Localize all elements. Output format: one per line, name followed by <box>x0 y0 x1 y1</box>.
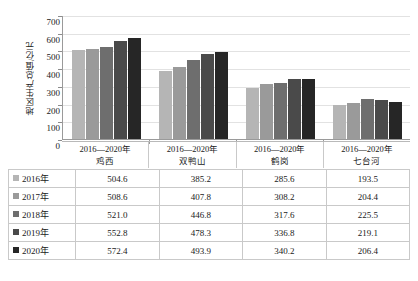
bar-chart: 地区生产总值/亿元 7006005004003002001000 2016—20… <box>0 0 418 168</box>
y-axis-tick-labels: 7006005004003002001000 <box>38 10 60 146</box>
table-cell: 193.5 <box>326 170 410 188</box>
bar[interactable] <box>114 41 127 139</box>
y-axis-tick-label: 100 <box>38 122 60 134</box>
category-label-1: 2016—2020年鸡西 <box>62 142 149 168</box>
data-table-body: 2016年504.6385.2285.6193.52017年508.6407.8… <box>9 170 410 260</box>
category-label-band: 2016—2020年鸡西2016—2020年双鸭山2016—2020年鹤岗201… <box>62 141 410 168</box>
y-axis-tick-label: 200 <box>38 105 60 117</box>
bar[interactable] <box>159 71 172 139</box>
table-cell: 219.1 <box>326 224 410 242</box>
bar[interactable] <box>86 49 99 139</box>
legend-entry[interactable]: 2020年 <box>9 242 76 260</box>
bar[interactable] <box>173 67 186 139</box>
legend-entry[interactable]: 2016年 <box>9 170 76 188</box>
legend-label: 2017年 <box>22 192 49 202</box>
bar[interactable] <box>201 54 214 139</box>
bar-groups <box>63 16 410 139</box>
legend-label: 2020年 <box>22 246 49 256</box>
table-cell: 204.4 <box>326 188 410 206</box>
table-row: 2016年504.6385.2285.6193.5 <box>9 170 410 188</box>
y-axis-tick-label: 400 <box>38 69 60 81</box>
category-year-range: 2016—2020年 <box>167 143 219 155</box>
table-cell: 340.2 <box>243 242 327 260</box>
bar-group <box>237 16 324 139</box>
table-row: 2019年552.8478.3336.8219.1 <box>9 224 410 242</box>
category-year-range: 2016—2020年 <box>341 143 393 155</box>
bar[interactable] <box>215 52 228 139</box>
table-row: 2017年508.6407.8308.2204.4 <box>9 188 410 206</box>
table-cell: 446.8 <box>159 206 243 224</box>
bar[interactable] <box>389 102 402 139</box>
legend-swatch-icon <box>13 211 19 217</box>
category-label-2: 2016—2020年双鸭山 <box>149 142 236 168</box>
category-year-range: 2016—2020年 <box>254 143 306 155</box>
data-table: 2016年504.6385.2285.6193.52017年508.6407.8… <box>8 169 410 260</box>
bar-group <box>324 16 411 139</box>
bar[interactable] <box>128 38 141 139</box>
table-cell: 407.8 <box>159 188 243 206</box>
category-city-name: 七台河 <box>353 155 380 167</box>
y-axis-tick-label: 700 <box>38 16 60 28</box>
category-city-name: 鹤岗 <box>271 155 289 167</box>
legend-entry[interactable]: 2017年 <box>9 188 76 206</box>
category-label-3: 2016—2020年鹤岗 <box>237 142 324 168</box>
table-cell: 504.6 <box>76 170 160 188</box>
bar[interactable] <box>100 47 113 139</box>
bar[interactable] <box>274 83 287 139</box>
table-cell: 572.4 <box>76 242 160 260</box>
bar[interactable] <box>347 103 360 139</box>
legend-entry[interactable]: 2019年 <box>9 224 76 242</box>
bar[interactable] <box>187 60 200 139</box>
bar[interactable] <box>361 99 374 139</box>
y-axis-tick-label: 300 <box>38 87 60 99</box>
category-label-4: 2016—2020年七台河 <box>324 142 410 168</box>
category-year-range: 2016—2020年 <box>79 143 131 155</box>
chart-page: 地区生产总值/亿元 7006005004003002001000 2016—20… <box>0 0 418 281</box>
table-row: 2020年572.4493.9340.2206.4 <box>9 242 410 260</box>
table-cell: 552.8 <box>76 224 160 242</box>
bar[interactable] <box>246 88 259 139</box>
bar[interactable] <box>260 84 273 139</box>
table-cell: 336.8 <box>243 224 327 242</box>
legend-entry[interactable]: 2018年 <box>9 206 76 224</box>
table-cell: 521.0 <box>76 206 160 224</box>
table-cell: 493.9 <box>159 242 243 260</box>
legend-label: 2019年 <box>22 228 49 238</box>
legend-swatch-icon <box>13 247 19 253</box>
bar-group <box>150 16 237 139</box>
table-row: 2018年521.0446.8317.6225.5 <box>9 206 410 224</box>
category-city-name: 鸡西 <box>96 155 114 167</box>
bar-group <box>63 16 150 139</box>
table-cell: 317.6 <box>243 206 327 224</box>
legend-swatch-icon <box>13 175 19 181</box>
legend-label: 2016年 <box>22 174 49 184</box>
y-axis-tick-label: 600 <box>38 34 60 46</box>
category-city-name: 双鸭山 <box>179 155 206 167</box>
table-cell: 285.6 <box>243 170 327 188</box>
bar[interactable] <box>72 50 85 139</box>
table-cell: 225.5 <box>326 206 410 224</box>
y-axis-title: 地区生产总值/亿元 <box>24 16 38 140</box>
legend-label: 2018年 <box>22 210 49 220</box>
y-axis-tick-label: 0 <box>38 140 60 152</box>
y-axis-tick-label: 500 <box>38 51 60 63</box>
table-cell: 385.2 <box>159 170 243 188</box>
bar[interactable] <box>375 100 388 139</box>
legend-swatch-icon <box>13 193 19 199</box>
legend-swatch-icon <box>13 229 19 235</box>
table-cell: 478.3 <box>159 224 243 242</box>
plot-area <box>62 16 410 140</box>
bar[interactable] <box>302 79 315 139</box>
table-cell: 308.2 <box>243 188 327 206</box>
table-cell: 508.6 <box>76 188 160 206</box>
bar[interactable] <box>288 79 301 139</box>
bar[interactable] <box>333 105 346 139</box>
table-cell: 206.4 <box>326 242 410 260</box>
